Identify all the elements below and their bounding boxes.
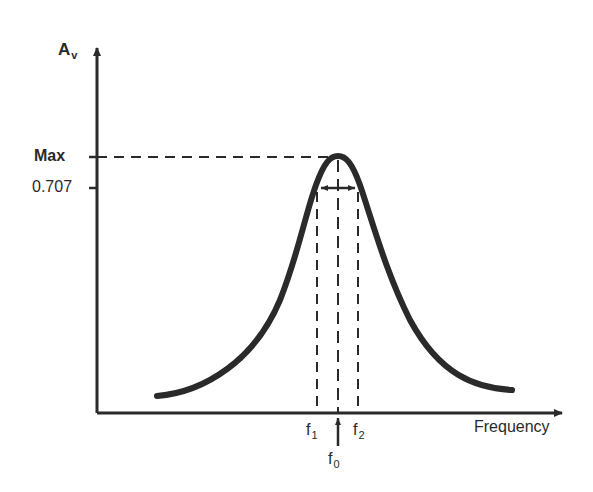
y-tick-label-0707: 0.707 <box>32 178 72 196</box>
x-tick-label-f2: f2 <box>353 421 365 441</box>
x-tick-label-f1: f1 <box>306 421 318 441</box>
x-axis-label: Frequency <box>474 418 550 436</box>
y-tick-label-max: Max <box>34 147 65 165</box>
x-tick-label-f0: f0 <box>328 450 340 470</box>
response-curve <box>157 156 512 396</box>
y-axis-label: Av <box>58 40 77 61</box>
